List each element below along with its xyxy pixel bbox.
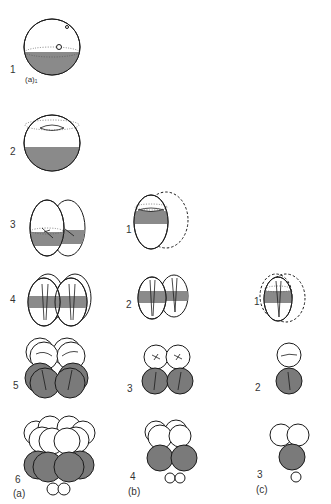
stage-b4-eight-cell [145, 420, 197, 483]
column-label-b: (b) [128, 486, 140, 497]
nucleus-icon [57, 45, 62, 50]
stage-label-a6: 6 [15, 474, 21, 485]
stage-label-b2: 2 [126, 299, 132, 310]
stage-c3-four-cell [270, 424, 309, 482]
stage-label-c3: 3 [257, 469, 263, 480]
column-label-c: (c) [256, 484, 268, 495]
stage-a1-egg [20, 19, 84, 75]
stage-label-b4: 4 [130, 471, 136, 482]
stage-label-c1: 1 [254, 296, 260, 307]
stage-label-b1: 1 [126, 224, 132, 235]
stage-label-a2: 2 [10, 146, 16, 157]
stage-c1-egg [260, 274, 305, 322]
stage-a2-egg [20, 115, 84, 173]
polar-body-icon [66, 26, 69, 29]
stage-a6-sixteen-cell [24, 416, 95, 495]
stage-b2-two-cell [136, 275, 190, 319]
column-label-a: (a) [13, 488, 25, 499]
stage-b3-four-cell [142, 345, 193, 394]
stage-a5-eight-cell [25, 338, 88, 398]
stage-a4-four-cell [27, 274, 91, 326]
stage-label-a4: 4 [10, 294, 16, 305]
sub-label-a1: (a)₁ [25, 75, 38, 84]
stage-label-a5: 5 [13, 380, 19, 391]
stage-label-c2: 2 [255, 382, 261, 393]
stage-label-a3: 3 [10, 219, 16, 230]
stage-label-b3: 3 [127, 383, 133, 394]
stage-label-a1: 1 [10, 64, 16, 75]
stage-c2-two-cell [276, 343, 302, 394]
cleavage-diagram: 1 (a)₁ 2 3 4 [0, 0, 331, 504]
stage-a3-two-cell [28, 200, 90, 256]
stage-b1-egg [132, 192, 188, 249]
